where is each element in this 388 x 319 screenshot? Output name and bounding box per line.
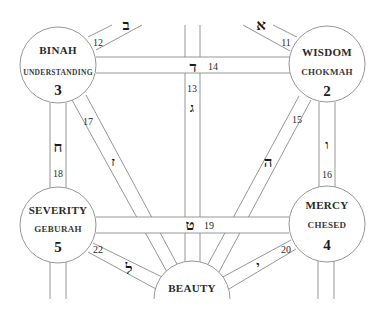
sephira-subtitle: CHOKMAH [301,67,353,77]
hebrew-letter-aleph: א [256,16,266,34]
sephira-chesed: MERCY CHESED 4 [289,186,365,262]
path-number-14: 14 [208,61,218,72]
sephira-binah: BINAH UNDERSTANDING 3 [20,27,96,103]
tree-of-life-diagram: BINAH UNDERSTANDING 3 WISDOM CHOKMAH 2 S… [0,0,388,319]
hebrew-letter-yod: י [256,258,259,273]
sephira-name: BINAH [39,44,77,56]
hebrew-letter-heh: ה [264,153,273,171]
hebrew-letter-zayin: ז [111,154,115,169]
hebrew-letter-beth: ב [122,16,129,34]
sephira-number: 4 [323,237,331,253]
sephira-tiphareth: BEAUTY [154,261,230,299]
hebrew-letter-teth: ט [185,216,194,234]
hebrew-letter-gimel: ג [190,101,194,115]
sephira-name: MERCY [305,199,348,211]
path-number-20: 20 [281,244,291,255]
sephira-subtitle: GEBURAH [34,224,82,234]
path-number-11: 11 [281,37,291,48]
path-number-18: 18 [53,168,63,179]
sephira-number: 2 [323,83,331,99]
sephira-chokmah: WISDOM CHOKMAH 2 [289,26,365,102]
path-number-17: 17 [83,116,93,127]
hebrew-letter-daleth: ד [189,58,196,76]
hebrew-letter-vav: ו [325,137,328,152]
sephira-subtitle: UNDERSTANDING [23,68,93,77]
path-number-16: 16 [322,169,332,180]
sephira-name: BEAUTY [168,282,216,294]
sephira-number: 5 [54,239,62,255]
sephira-subtitle: CHESED [308,220,347,230]
sephira-number: 3 [54,82,62,98]
sephira-geburah: SEVERITY GEBURAH 5 [20,187,96,263]
path-number-15: 15 [292,114,302,125]
path-number-19: 19 [204,220,214,231]
path-chesed-down [318,261,334,299]
path-number-12: 12 [93,37,103,48]
path-number-22: 22 [93,244,103,255]
sephira-name: SEVERITY [29,204,88,216]
path-geburah-down [50,262,66,299]
hebrew-letter-lamed: ל [124,260,132,278]
hebrew-letter-cheth: ח [54,138,63,156]
path-number-13: 13 [187,83,197,94]
sephira-name: WISDOM [302,46,352,58]
